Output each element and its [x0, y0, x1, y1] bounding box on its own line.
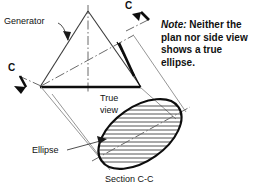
- cut-mark-left-arrowhead: [14, 86, 26, 94]
- label-cut-mark-left: C: [8, 63, 15, 73]
- label-ellipse: Ellipse: [32, 145, 59, 155]
- label-cut-mark-top: C: [125, 1, 132, 11]
- label-section-c-c: Section C-C: [105, 174, 154, 184]
- label-true-view: True view: [100, 92, 118, 116]
- label-true-view-line1: True: [100, 92, 118, 104]
- cut-section-edge-lower: [117, 42, 140, 86]
- figure-page: Generator C C True view Ellipse Section …: [0, 0, 255, 192]
- note-lead-word: Note:: [161, 19, 187, 30]
- cut-mark-top-arrowhead: [132, 12, 141, 21]
- cut-mark-top-flag: [141, 12, 149, 20]
- label-generator: Generator: [4, 16, 45, 26]
- note-text: Note: Neither the plan nor side view sho…: [161, 19, 255, 69]
- label-true-view-line2: view: [100, 104, 118, 116]
- cone-left-generator: [40, 11, 88, 87]
- cut-mark-top-centerline: [126, 19, 150, 31]
